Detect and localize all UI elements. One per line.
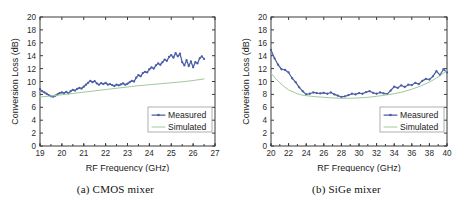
caption-b: (b)SiGe mixer [231, 183, 462, 195]
data-point [96, 82, 98, 84]
panel-sige-mixer: 202224262830323436384002468101214161820 … [231, 0, 462, 205]
data-point [372, 92, 374, 94]
legend-marker-measured [389, 114, 392, 117]
figure-container: 19202122232425262702468101214161820 Meas… [0, 0, 462, 205]
x-tick-label: 28 [337, 149, 347, 158]
caption-b-tag: (b) [312, 183, 325, 195]
y-tick-label: 20 [27, 13, 37, 22]
x-axis-title: RF Frequency (GHz) [86, 163, 170, 172]
data-point [74, 89, 76, 91]
data-point [294, 81, 296, 83]
y-tick-label: 2 [262, 129, 267, 138]
data-point [270, 49, 272, 51]
legend-label-measured[interactable]: Measured [168, 110, 206, 120]
data-point [98, 84, 100, 86]
data-point [179, 53, 181, 55]
y-tick-label: 18 [27, 26, 37, 35]
caption-b-text: SiGe mixer [329, 183, 381, 195]
data-point [442, 68, 444, 70]
data-point [94, 80, 96, 82]
y-tick-label: 4 [262, 116, 267, 125]
y-tick-label: 12 [27, 65, 37, 74]
y-tick-label: 16 [258, 39, 268, 48]
y-tick-label: 16 [27, 39, 37, 48]
data-point [91, 81, 93, 83]
data-point [164, 58, 166, 60]
data-point [80, 87, 82, 89]
data-point [41, 90, 43, 92]
data-point [194, 61, 196, 63]
y-tick-label: 10 [258, 78, 268, 87]
data-point [181, 61, 183, 63]
data-point [142, 72, 144, 74]
data-point [309, 93, 311, 95]
data-point [199, 57, 201, 59]
data-point [144, 71, 146, 73]
data-point [61, 91, 63, 93]
data-point [397, 87, 399, 89]
caption-a-tag: (a) [77, 183, 90, 195]
chart-svg-b: 202224262830323436384002468101214161820 … [231, 0, 462, 172]
data-point [83, 86, 85, 88]
legend-a[interactable]: MeasuredSimulated [148, 107, 212, 132]
data-point [85, 84, 87, 86]
caption-a-text: CMOS mixer [93, 183, 155, 195]
data-point [155, 64, 157, 66]
legend-b[interactable]: MeasuredSimulated [380, 107, 444, 132]
x-tick-label: 22 [284, 149, 294, 158]
x-tick-label: 26 [189, 149, 199, 158]
data-point [316, 92, 318, 94]
data-point [39, 88, 41, 90]
y-tick-label: 8 [262, 90, 267, 99]
data-point [89, 80, 91, 82]
data-point [344, 95, 346, 97]
y-tick-label: 12 [258, 65, 268, 74]
x-tick-label: 23 [123, 149, 133, 158]
data-point [280, 68, 282, 70]
data-point [407, 84, 409, 86]
data-point [201, 55, 203, 57]
data-point [72, 89, 74, 91]
legend-label-measured[interactable]: Measured [400, 110, 438, 120]
data-point [166, 60, 168, 62]
legend-label-simulated[interactable]: Simulated [400, 122, 438, 132]
data-point [139, 75, 141, 77]
x-tick-label: 26 [319, 149, 329, 158]
data-point [333, 93, 335, 95]
data-point [326, 93, 328, 95]
data-point [435, 70, 437, 72]
data-point [148, 68, 150, 70]
data-point [400, 84, 402, 86]
data-point [170, 54, 172, 56]
legend-label-simulated[interactable]: Simulated [168, 122, 206, 132]
data-point [107, 84, 109, 86]
data-point [393, 86, 395, 88]
data-point [118, 84, 120, 86]
data-point [177, 55, 179, 57]
data-point [43, 91, 45, 93]
x-tick-label: 24 [145, 149, 155, 158]
y-tick-label: 10 [27, 78, 37, 87]
data-point [102, 83, 104, 85]
chart-sige-mixer: 202224262830323436384002468101214161820 … [231, 0, 462, 172]
data-point [432, 75, 434, 77]
data-point [100, 82, 102, 84]
data-point [150, 66, 152, 68]
y-tick-label: 20 [258, 13, 268, 22]
data-point [330, 91, 332, 93]
data-point [404, 86, 406, 88]
data-point [172, 56, 174, 58]
data-point [414, 82, 416, 84]
x-tick-label: 36 [407, 149, 417, 158]
data-point [153, 67, 155, 69]
data-point [323, 92, 325, 94]
x-tick-label: 34 [390, 149, 400, 158]
y-tick-label: 6 [262, 103, 267, 112]
data-point [109, 83, 111, 85]
data-point [104, 82, 106, 84]
data-point [124, 84, 126, 86]
x-tick-label: 40 [442, 149, 452, 158]
data-point [196, 62, 198, 64]
data-point [133, 80, 135, 82]
data-point [273, 57, 275, 59]
